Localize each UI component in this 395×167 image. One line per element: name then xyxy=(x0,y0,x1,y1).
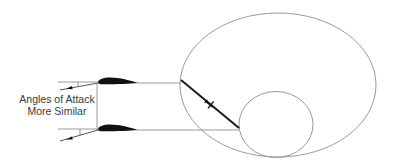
lower-arrowhead-icon xyxy=(66,136,73,139)
upper-airfoil xyxy=(98,78,138,85)
caption-line-1: Angles of Attack xyxy=(14,94,100,106)
upper-arrowhead-icon xyxy=(66,86,73,89)
outer-rotor-path-ellipse xyxy=(180,13,376,157)
inner-rotor-path-circle xyxy=(239,92,313,158)
rotor-disc-diagram xyxy=(0,0,395,167)
upper-relative-wind-arrow xyxy=(60,83,98,90)
lower-airfoil xyxy=(98,125,138,132)
caption-line-2: More Similar xyxy=(14,106,100,118)
angles-of-attack-caption: Angles of Attack More Similar xyxy=(14,94,100,117)
lower-relative-wind-arrow xyxy=(60,130,98,141)
